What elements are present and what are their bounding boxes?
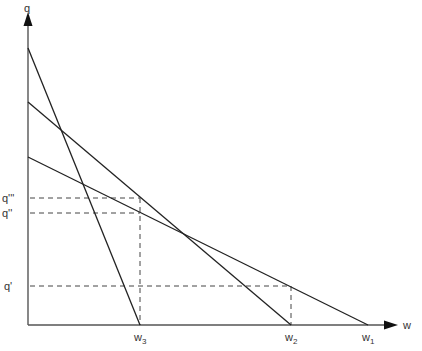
tick-label-w3: w3 [133,331,147,346]
y-axis-arrow-icon [24,12,33,26]
diagram-canvas: q w q''' q'' q' w3 w2 w1 [0,0,422,351]
line-w1 [28,157,368,325]
tick-label-w1: w1 [361,331,375,346]
tick-label-q1: q' [4,280,12,292]
guide-lines [30,198,291,325]
x-axis-label: w [402,319,411,331]
tick-label-w2: w2 [284,331,298,346]
x-axis-arrow-icon [384,321,398,330]
demand-lines [28,48,368,325]
line-w3 [28,48,140,325]
tick-label-q2: q'' [2,207,12,219]
y-axis-label: q [24,2,30,14]
tick-label-q3: q''' [2,192,14,204]
